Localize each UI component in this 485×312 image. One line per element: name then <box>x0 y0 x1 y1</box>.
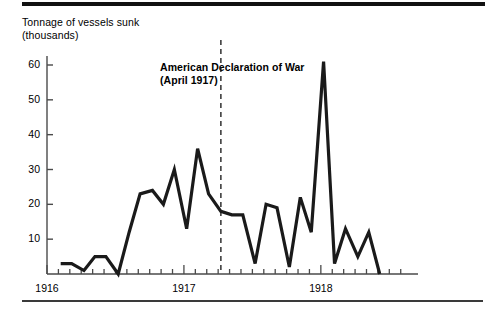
y-axis-tick-label: 60 <box>14 58 40 70</box>
figure-container: Tonnage of vessels sunk (thousands) Amer… <box>0 0 485 312</box>
y-axis-tick-label: 10 <box>14 232 40 244</box>
x-axis-tick-label: 1918 <box>301 282 341 294</box>
y-axis-tick-label: 40 <box>14 128 40 140</box>
x-axis-tick-label: 1917 <box>164 282 204 294</box>
y-axis-tick-label: 50 <box>14 93 40 105</box>
y-axis-tick-label: 20 <box>14 197 40 209</box>
x-axis-tick-label: 1916 <box>27 282 67 294</box>
y-axis-tick-label: 30 <box>14 163 40 175</box>
line-chart-svg <box>0 0 485 312</box>
data-series-line <box>61 62 380 274</box>
chart-plot-area <box>0 0 485 312</box>
